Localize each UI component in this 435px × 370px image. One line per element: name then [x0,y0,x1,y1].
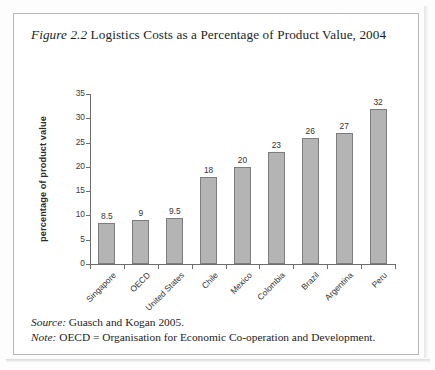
y-axis-tick: 10 [90,215,91,216]
source-text: Guasch and Kogan 2005. [66,316,184,328]
figure-title-text: Logistics Costs as a Percentage of Produ… [87,27,386,42]
bar-chart: percentage of product value 051015202530… [31,66,403,311]
bar-value-label: 20 [238,155,247,165]
y-axis-tick-mark [86,215,90,216]
y-axis-tick-mark [86,167,90,168]
figure-container: Figure 2.2 Logistics Costs as a Percenta… [13,13,419,355]
x-axis-category-label-text: Chile [199,270,220,291]
y-axis-tick: 20 [90,167,91,168]
x-axis-tick-mark [90,265,91,269]
y-axis-tick-label: 25 [76,137,85,147]
x-axis-tick-mark [259,265,260,269]
x-axis-tick-mark [226,265,227,269]
figure-notes: Source: Guasch and Kogan 2005. Note: OEC… [31,315,403,344]
figure-note: Note: OECD = Organisation for Economic C… [31,330,403,345]
x-axis-category-label-text: Brazil [299,270,321,292]
y-axis-tick-label: 20 [76,161,85,171]
figure-source: Source: Guasch and Kogan 2005. [31,315,403,330]
x-axis-category-label-text: Colombia [255,270,287,302]
bar: 9.5 [166,218,183,264]
x-axis-tick-mark [327,265,328,269]
y-axis-tick-label: 15 [76,185,85,195]
x-axis-tick-mark [158,265,159,269]
source-label: Source: [31,316,66,328]
bar: 20 [234,167,251,264]
x-axis-category-label-text: Peru [370,270,390,290]
bar: 18 [200,177,217,264]
x-axis-tick-mark [395,265,396,269]
bar-value-label: 8.5 [101,211,113,221]
y-axis-tick: 35 [90,94,91,95]
y-axis-tick: 30 [90,118,91,119]
bar-value-label: 32 [373,97,382,107]
bar-value-label: 27 [339,121,348,131]
bar: 32 [370,109,387,264]
bar-value-label: 18 [204,165,213,175]
note-label: Note: [31,331,56,343]
y-axis-tick-label: 30 [76,112,85,122]
note-text: OECD = Organisation for Economic Co-oper… [56,331,375,343]
y-axis-tick: 15 [90,191,91,192]
bar: 9 [132,220,149,264]
y-axis-tick-mark [86,118,90,119]
bar: 27 [336,133,353,264]
y-axis-title: percentage of product value [36,94,50,264]
x-axis-category-label-text: Argentina [323,270,355,302]
y-axis-tick-mark [86,94,90,95]
bar: 26 [302,138,319,264]
scan-edge-shadow-right [424,6,429,358]
x-axis-category-label-text: Singapore [84,270,118,304]
figure-title: Figure 2.2 Logistics Costs as a Percenta… [31,26,397,43]
bar-value-label: 23 [272,140,281,150]
bar-value-label: 26 [306,126,315,136]
y-axis-tick-mark [86,191,90,192]
x-axis-tick-mark [124,265,125,269]
y-axis-tick-mark [86,240,90,241]
plot-area: 05101520253035 8.599.5182023262732 Singa… [90,94,395,264]
bar-value-label: 9.5 [169,206,181,216]
page-background: Figure 2.2 Logistics Costs as a Percenta… [0,0,435,370]
y-axis-tick-label: 0 [80,258,85,268]
y-axis-tick-label: 10 [76,209,85,219]
x-axis-category-label-text: OECD [128,270,152,294]
x-axis-category-label-text: Mexico [228,270,254,296]
y-axis-tick-label: 5 [80,234,85,244]
x-axis-tick-mark [361,265,362,269]
y-axis-tick-mark [86,143,90,144]
bar: 8.5 [98,223,115,264]
x-axis-tick-mark [293,265,294,269]
x-axis-line [90,264,396,265]
y-axis-title-label: percentage of product value [38,116,48,242]
x-axis-tick-mark [192,265,193,269]
y-axis-tick: 5 [90,240,91,241]
bar-value-label: 9 [138,208,143,218]
bar: 23 [268,152,285,264]
scan-edge-shadow-bottom [6,359,430,363]
figure-number: Figure 2.2 [31,27,87,42]
y-axis-tick-label: 35 [76,88,85,98]
y-axis-tick: 25 [90,143,91,144]
